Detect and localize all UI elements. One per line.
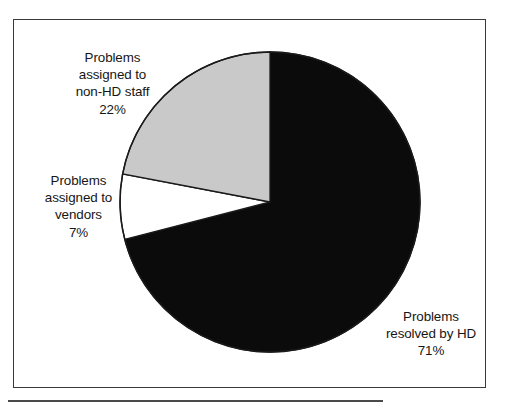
pie-label-non-hd-staff: Problems assigned to non-HD staff 22% — [46, 49, 179, 118]
pie-label-value: 22% — [46, 101, 179, 118]
pie-label-line: resolved by HD — [366, 325, 496, 342]
pie-label-line: non-HD staff — [46, 83, 179, 100]
pie-label-line: Problems — [12, 172, 145, 189]
pie-label-line: Problems — [46, 49, 179, 66]
pie-label-line: vendors — [12, 206, 145, 223]
page-canvas: Problems assigned to non-HD staff 22% Pr… — [0, 0, 509, 410]
pie-label-line: assigned to — [46, 66, 179, 83]
pie-label-line: Problems — [366, 308, 496, 325]
page-divider-rule — [8, 400, 383, 402]
pie-label-vendors: Problems assigned to vendors 7% — [12, 172, 145, 241]
pie-label-resolved-by-hd: Problems resolved by HD 71% — [366, 308, 496, 360]
pie-label-value: 71% — [366, 342, 496, 359]
pie-label-value: 7% — [12, 224, 145, 241]
pie-label-line: assigned to — [12, 189, 145, 206]
